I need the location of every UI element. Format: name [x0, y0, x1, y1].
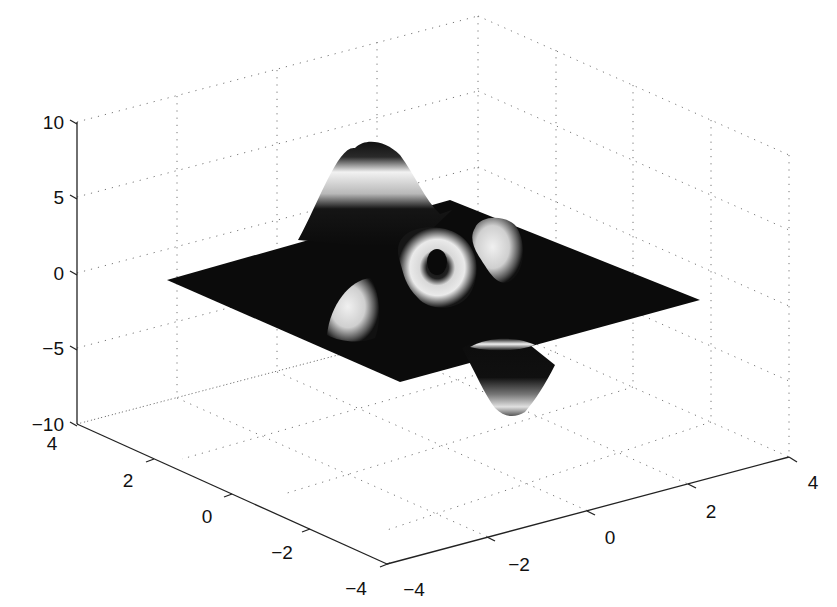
surface-center-hole [427, 249, 447, 275]
surface-plot-3d: 10 5 0 −5 −10 4 2 0 −2 −4 −4 −2 0 2 4 [0, 0, 837, 607]
x-axis-line [387, 457, 789, 564]
svg-text:−2: −2 [271, 542, 293, 563]
svg-text:5: 5 [53, 187, 64, 208]
svg-text:2: 2 [706, 501, 717, 522]
svg-text:−4: −4 [403, 579, 425, 600]
x-tick-labels: −4 −2 0 2 4 [403, 472, 819, 600]
surface-trough [462, 339, 555, 416]
svg-text:−5: −5 [42, 338, 64, 359]
y-tick-labels: 4 2 0 −2 −4 [47, 433, 368, 599]
svg-text:4: 4 [47, 433, 58, 454]
svg-text:−2: −2 [508, 554, 530, 575]
svg-text:4: 4 [808, 472, 819, 493]
svg-text:0: 0 [53, 263, 64, 284]
surface [167, 142, 700, 416]
svg-text:0: 0 [202, 506, 213, 527]
svg-text:0: 0 [605, 527, 616, 548]
svg-text:10: 10 [43, 112, 64, 133]
z-tick-labels: 10 5 0 −5 −10 [32, 112, 64, 435]
svg-text:2: 2 [123, 470, 134, 491]
svg-text:−4: −4 [345, 578, 367, 599]
svg-text:−10: −10 [32, 414, 64, 435]
